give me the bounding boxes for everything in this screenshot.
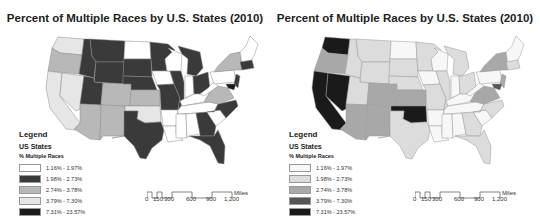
- legend-class: 1.16% - 1.97%: [19, 162, 85, 173]
- legend-class: 2.74% - 3.78%: [289, 184, 355, 195]
- legend-swatch: [289, 197, 311, 205]
- legend-class-label: 7.31% - 23.57%: [46, 209, 85, 215]
- legend-class-label: 7.31% - 23.57%: [316, 209, 355, 215]
- legend-class-label: 2.74% - 3.78%: [316, 187, 352, 193]
- scale-tick: 1,200: [492, 196, 507, 202]
- map-title: Percent of Multiple Races by U.S. States…: [270, 12, 540, 24]
- legend-class-label: 1.98% - 2.73%: [46, 176, 82, 182]
- scale-bar: Miles 0 150 300 600 900 1,200: [147, 186, 247, 204]
- legend-layer-name: US States: [289, 143, 355, 150]
- map-title: Percent of Multiple Races by U.S. States…: [0, 12, 270, 24]
- scale-bar: Miles 0 150 300 600 900 1,200: [415, 186, 515, 204]
- scale-tick: 300: [164, 196, 174, 202]
- legend-class-label: 1.16% - 1.97%: [46, 165, 82, 171]
- legend-class: 1.98% - 2.73%: [289, 173, 355, 184]
- scale-tick: 0: [145, 196, 148, 202]
- legend-swatch: [289, 186, 311, 194]
- legend-class: 7.31% - 23.57%: [289, 206, 355, 217]
- legend-swatch: [289, 208, 311, 216]
- legend-swatch: [19, 197, 41, 205]
- legend-class-label: 3.79% - 7.30%: [316, 198, 352, 204]
- legend-swatch: [19, 175, 41, 183]
- legend-swatch: [289, 164, 311, 172]
- scale-tick: 600: [186, 196, 196, 202]
- legend-swatch: [19, 164, 41, 172]
- legend-class: 1.16% - 1.97%: [289, 162, 355, 173]
- scale-tick: 600: [454, 196, 464, 202]
- scale-tick: 900: [206, 196, 216, 202]
- legend-class: 7.31% - 23.57%: [19, 206, 85, 217]
- right-map-panel: Percent of Multiple Races by U.S. States…: [270, 0, 540, 222]
- legend-class: 1.98% - 2.73%: [19, 173, 85, 184]
- legend-class: 3.79% - 7.30%: [289, 195, 355, 206]
- map-legend: Legend US States % Multiple Races 1.16% …: [289, 130, 355, 217]
- scale-tick: 300: [432, 196, 442, 202]
- scale-tick: 900: [474, 196, 484, 202]
- legend-swatch: [289, 175, 311, 183]
- map-legend: Legend US States % Multiple Races 1.16% …: [19, 130, 85, 217]
- legend-class: 2.74% - 3.78%: [19, 184, 85, 195]
- scale-tick: 150: [153, 196, 163, 202]
- legend-class: 3.79% - 7.30%: [19, 195, 85, 206]
- legend-layer-name: US States: [19, 143, 85, 150]
- legend-swatch: [19, 208, 41, 216]
- legend-class-label: 2.74% - 3.78%: [46, 187, 82, 193]
- legend-title: Legend: [19, 130, 85, 139]
- legend-field-name: % Multiple Races: [19, 153, 85, 159]
- legend-swatch: [19, 186, 41, 194]
- legend-class-label: 1.16% - 1.97%: [316, 165, 352, 171]
- legend-class-label: 3.79% - 7.30%: [46, 198, 82, 204]
- scale-tick: 0: [413, 196, 416, 202]
- scale-tick: 1,200: [224, 196, 239, 202]
- left-map-panel: Percent of Multiple Races by U.S. States…: [0, 0, 270, 222]
- legend-class-label: 1.98% - 2.73%: [316, 176, 352, 182]
- legend-field-name: % Multiple Races: [289, 153, 355, 159]
- scale-tick: 150: [421, 196, 431, 202]
- legend-title: Legend: [289, 130, 355, 139]
